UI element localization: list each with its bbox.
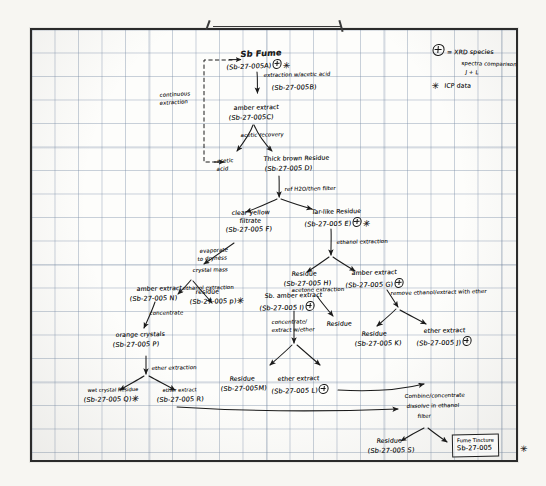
node-thick-brown-residue-code: (Sb-27-005 D) bbox=[264, 164, 312, 173]
node-amber-extract-c-name: amber extract bbox=[233, 103, 279, 112]
node-ether-extract-r-name: ether extract bbox=[162, 386, 196, 393]
circled-plus-icon bbox=[272, 59, 282, 69]
node-clear-yellow-filtrate-code: (Sb-27-005 F) bbox=[225, 225, 272, 234]
node-thick-brown-residue-name: Thick brown Residue bbox=[263, 154, 329, 163]
label-crystal-mass: crystal mass bbox=[192, 266, 228, 274]
final-product-icp-marker: ✳ bbox=[520, 445, 528, 454]
node-amber-extract-n-name: amber extract bbox=[136, 284, 182, 293]
asterisk-icon: ✳ bbox=[236, 297, 244, 306]
node-wet-crystal-residue-code: (Sb-27-005 Q)✳ bbox=[83, 395, 139, 405]
process-combine-line2: dissolve in ethanol bbox=[406, 402, 459, 410]
node-tar-like-residue-code: (Sb-27-005 E)✳ bbox=[304, 217, 371, 230]
legend-icp-text: ICP data bbox=[444, 82, 471, 89]
node-clear-yellow-filtrate-line2: filtrate bbox=[239, 217, 261, 225]
process-acetone-extraction: acetone extraction bbox=[291, 286, 344, 294]
node-amber-extract-n-code: (Sb-27-005 N) bbox=[129, 294, 177, 303]
node-residue-h-name: Residue bbox=[291, 269, 317, 277]
final-product-label-line2: Sb-27-005 bbox=[457, 444, 494, 453]
asterisk-icon: ✳ bbox=[520, 445, 528, 454]
final-product-box: Fume Tincture Sb-27-005 bbox=[452, 434, 499, 458]
node-residue-s-name: Residue bbox=[376, 436, 402, 444]
node-orange-crystals-name: orange crystals bbox=[115, 330, 165, 339]
circled-plus-icon bbox=[305, 301, 315, 311]
node-residue-m-name: Residue bbox=[229, 374, 255, 382]
asterisk-icon: ✳ bbox=[362, 219, 370, 228]
note-acetic-acid-line1: acetic bbox=[216, 157, 233, 165]
process-ref-h2o-filter: ref H2O/then filter bbox=[284, 185, 336, 193]
node-ether-extract-l-code: (Sb-27-005 L) bbox=[271, 384, 330, 396]
legend-spectra-note-line2: J + L bbox=[465, 69, 479, 76]
node-tar-like-residue-name: Tar-like Residue bbox=[311, 207, 361, 216]
circled-plus-icon bbox=[462, 336, 472, 346]
node-orange-crystals-code: (Sb-27-005 P) bbox=[112, 340, 159, 349]
scanned-page: = XRD species spectra comparison J + L ✳… bbox=[0, 0, 546, 486]
node-clear-yellow-filtrate-line1: clear yellow bbox=[231, 208, 270, 217]
legend-xrd-text: = XRD species bbox=[447, 48, 494, 55]
node-residue-k-code: (Sb-27-005 K) bbox=[354, 339, 402, 348]
circled-plus-icon bbox=[352, 217, 362, 227]
legend-icp-row: ✳ ICP data bbox=[431, 82, 471, 91]
node-sb-amber-extract-i-code: (Sb-27-005 I) bbox=[259, 301, 316, 313]
node-amber-extract-c-code: (Sb-27-005C) bbox=[228, 113, 274, 122]
process-concentrate-extract-line2: extract w/ether bbox=[271, 326, 315, 334]
node-amber-extract-g-code: (Sb-27-005 G) bbox=[345, 278, 405, 290]
legend: = XRD species spectra comparison J + L ✳… bbox=[432, 44, 542, 104]
node-residue-p-lower-code: (Sb-27-005 p)✳ bbox=[189, 297, 244, 307]
process-ethanol-extraction-right: ethanol extraction bbox=[336, 238, 388, 246]
node-ether-extract-l-name: ether extract bbox=[277, 374, 319, 383]
asterisk-icon: ✳ bbox=[282, 61, 290, 70]
node-residue-m-code: (Sb-27-005M) bbox=[220, 384, 267, 393]
node-sb-fume-name: Sb Fume bbox=[240, 47, 282, 59]
final-product-label-line1: Fume Tincture bbox=[457, 437, 494, 444]
process-concentrate: concentrate bbox=[149, 309, 183, 317]
process-combine-line1: Combine/concentrate bbox=[404, 392, 465, 400]
circled-plus-icon bbox=[319, 384, 329, 394]
legend-xrd-row: = XRD species bbox=[431, 43, 494, 56]
circled-plus-icon bbox=[394, 278, 404, 288]
node-ether-extract-j-name: ether extract bbox=[423, 326, 465, 335]
node-residue-p-lower-name: residue bbox=[195, 288, 219, 296]
asterisk-icon: ✳ bbox=[131, 395, 139, 404]
process-ether-extraction: ether extraction bbox=[151, 364, 197, 372]
asterisk-icon: ✳ bbox=[431, 82, 439, 91]
note-acetic-acid-line2: acid bbox=[216, 165, 228, 173]
process-acetic-recovery: acetic recovery bbox=[240, 131, 284, 139]
node-wet-crystal-residue-name: wet crystal Residue bbox=[87, 386, 138, 393]
top-edge-line bbox=[213, 26, 341, 27]
node-residue-mid-name: Residue bbox=[326, 319, 352, 327]
node-residue-s-code: (Sb-27-005 S) bbox=[367, 446, 415, 455]
node-residue-k-name: Residue bbox=[361, 329, 387, 337]
process-concentrate-extract-line1: concentrate/ bbox=[271, 318, 307, 326]
node-amber-extract-g-name: amber extract bbox=[351, 268, 397, 277]
process-combine-line3: filter bbox=[417, 413, 431, 420]
process-extraction-acetic-acid: extraction w/acetic acid bbox=[263, 71, 330, 79]
node-ether-extract-j-code: (Sb-27-005 J) bbox=[416, 336, 473, 348]
node-ether-extract-r-code: (Sb-27-005 R) bbox=[156, 395, 204, 404]
node-sb-005b-code: (Sb-27-005B) bbox=[271, 83, 317, 92]
circled-plus-icon bbox=[432, 44, 444, 56]
legend-spectra-note-line1: spectra comparison bbox=[461, 60, 517, 68]
